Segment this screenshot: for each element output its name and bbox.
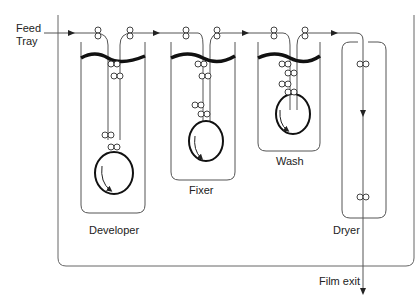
wash-drum	[276, 94, 310, 134]
film-processor-diagram	[0, 0, 418, 299]
wash-tank	[258, 42, 320, 151]
dryer-label: Dryer	[333, 224, 360, 236]
fixer-label: Fixer	[189, 184, 213, 196]
flow-arrows	[68, 30, 366, 295]
developer-label: Developer	[89, 224, 139, 236]
feed-tray-label-line2: Tray	[16, 35, 38, 47]
fixer-drum	[189, 121, 223, 161]
feed-tray-label-line1: Feed	[16, 22, 41, 34]
developer-drum	[95, 152, 133, 194]
developer-tank	[81, 42, 145, 213]
wash-label: Wash	[276, 155, 304, 167]
rollers	[95, 27, 369, 200]
dryer-unit	[342, 42, 386, 218]
film-exit-label: Film exit	[319, 275, 360, 287]
